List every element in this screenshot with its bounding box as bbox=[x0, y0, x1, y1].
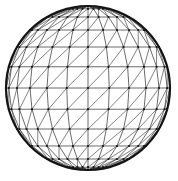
mesh-vertex bbox=[107, 158, 109, 160]
mesh-vertex bbox=[72, 145, 74, 147]
mesh-vertex bbox=[18, 66, 20, 68]
mesh-vertex bbox=[166, 87, 168, 89]
mesh-vertex bbox=[102, 145, 104, 147]
mesh-vertex bbox=[87, 145, 89, 147]
mesh-vertex bbox=[47, 108, 49, 110]
sphere-canvas bbox=[0, 0, 178, 181]
mesh-vertex bbox=[137, 145, 139, 147]
mesh-vertex bbox=[87, 66, 89, 68]
mesh-vertex bbox=[98, 158, 100, 160]
mesh-vertex bbox=[58, 145, 60, 147]
mesh-vertex bbox=[122, 46, 124, 48]
mesh-vertex bbox=[66, 158, 68, 160]
mesh-vertex bbox=[87, 166, 89, 168]
mesh-vertex bbox=[98, 16, 100, 18]
mesh-vertex bbox=[107, 16, 109, 18]
mesh-vertex bbox=[69, 46, 71, 48]
mesh-vertex bbox=[158, 87, 160, 89]
mesh-vertex bbox=[148, 128, 150, 130]
mesh-vertex bbox=[76, 8, 78, 10]
mesh-vertex bbox=[25, 46, 27, 48]
mesh-vertex bbox=[105, 128, 107, 130]
mesh-vertex bbox=[108, 87, 110, 89]
mesh-vertex bbox=[87, 46, 89, 48]
mesh-vertex bbox=[122, 128, 124, 130]
mesh-vertex bbox=[18, 108, 20, 110]
mesh-vertex bbox=[76, 166, 78, 168]
mesh-vertex bbox=[137, 128, 139, 130]
mesh-vertex bbox=[46, 29, 48, 31]
mesh-vertex bbox=[37, 145, 39, 147]
mesh-vertex bbox=[116, 29, 118, 31]
mesh-vertex bbox=[92, 8, 94, 10]
mesh-vertex bbox=[87, 87, 89, 89]
mesh-vertex bbox=[58, 16, 60, 18]
mesh-vertex bbox=[128, 29, 130, 31]
mesh-vertex bbox=[66, 66, 68, 68]
wireframe-sphere-figure bbox=[0, 0, 178, 181]
mesh-vertex bbox=[37, 46, 39, 48]
mesh-vertex bbox=[143, 108, 145, 110]
mesh-vertex bbox=[87, 8, 89, 10]
mesh-vertex bbox=[16, 87, 18, 89]
mesh-vertex bbox=[46, 145, 48, 147]
mesh-vertex bbox=[87, 158, 89, 160]
mesh-vertex bbox=[87, 29, 89, 31]
mesh-vertex bbox=[143, 66, 145, 68]
mesh-vertex bbox=[98, 8, 100, 10]
mesh-vertex bbox=[69, 128, 71, 130]
mesh-vertex bbox=[10, 108, 12, 110]
mesh-vertex bbox=[47, 66, 49, 68]
mesh-vertex bbox=[51, 16, 53, 18]
mesh-vertex bbox=[29, 87, 31, 89]
canvas-background bbox=[0, 0, 178, 181]
mesh-vertex bbox=[31, 108, 33, 110]
mesh-vertex bbox=[155, 66, 157, 68]
mesh-vertex bbox=[127, 66, 129, 68]
mesh-vertex bbox=[128, 87, 130, 89]
mesh-vertex bbox=[92, 166, 94, 168]
mesh-vertex bbox=[66, 87, 68, 89]
mesh-vertex bbox=[163, 108, 165, 110]
mesh-vertex bbox=[107, 108, 109, 110]
mesh-vertex bbox=[37, 128, 39, 130]
mesh-vertex bbox=[66, 16, 68, 18]
mesh-vertex bbox=[37, 29, 39, 31]
mesh-vertex bbox=[31, 66, 33, 68]
mesh-vertex bbox=[51, 46, 53, 48]
mesh-vertex bbox=[46, 87, 48, 89]
mesh-vertex bbox=[81, 166, 83, 168]
mesh-vertex bbox=[76, 16, 78, 18]
mesh-vertex bbox=[148, 46, 150, 48]
mesh-vertex bbox=[102, 29, 104, 31]
mesh-vertex bbox=[155, 108, 157, 110]
mesh-vertex bbox=[51, 158, 53, 160]
mesh-vertex bbox=[87, 108, 89, 110]
mesh-vertex bbox=[145, 87, 147, 89]
mesh-vertex bbox=[137, 46, 139, 48]
mesh-vertex bbox=[98, 166, 100, 168]
mesh-vertex bbox=[81, 8, 83, 10]
mesh-vertex bbox=[116, 158, 118, 160]
mesh-vertex bbox=[58, 29, 60, 31]
mesh-vertex bbox=[127, 108, 129, 110]
mesh-vertex bbox=[105, 46, 107, 48]
mesh-vertex bbox=[116, 16, 118, 18]
mesh-vertex bbox=[122, 16, 124, 18]
mesh-vertex bbox=[58, 158, 60, 160]
mesh-vertex bbox=[116, 145, 118, 147]
mesh-vertex bbox=[87, 128, 89, 130]
mesh-vertex bbox=[122, 158, 124, 160]
mesh-vertex bbox=[25, 128, 27, 130]
mesh-vertex bbox=[107, 66, 109, 68]
mesh-vertex bbox=[8, 87, 10, 89]
mesh-vertex bbox=[72, 29, 74, 31]
mesh-vertex bbox=[76, 158, 78, 160]
mesh-vertex bbox=[163, 66, 165, 68]
mesh-vertex bbox=[51, 128, 53, 130]
mesh-vertex bbox=[137, 29, 139, 31]
mesh-vertex bbox=[66, 108, 68, 110]
mesh-vertex bbox=[128, 145, 130, 147]
mesh-vertex bbox=[87, 16, 89, 18]
mesh-vertex bbox=[10, 66, 12, 68]
